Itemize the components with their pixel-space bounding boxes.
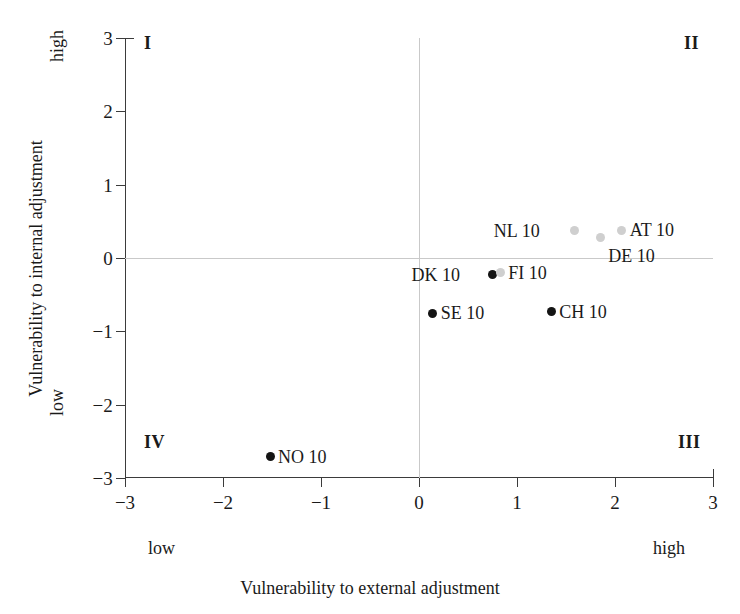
data-point bbox=[596, 233, 605, 242]
x-axis-tick-label: 1 bbox=[492, 493, 542, 512]
y-axis-tick-label: −1 bbox=[73, 322, 113, 341]
x-axis-tick-label: −3 bbox=[100, 493, 150, 512]
x-axis-tick-label: 2 bbox=[590, 493, 640, 512]
y-axis-tick-label: −3 bbox=[73, 469, 113, 488]
y-axis-tick bbox=[116, 478, 125, 479]
x-axis-high-anchor: high bbox=[653, 538, 685, 559]
data-point bbox=[617, 226, 626, 235]
data-point-label: SE 10 bbox=[441, 304, 485, 322]
data-point bbox=[266, 452, 275, 461]
data-point-label: FI 10 bbox=[508, 264, 547, 282]
data-point bbox=[428, 309, 437, 318]
data-point-label: NL 10 bbox=[494, 222, 540, 240]
x-axis-tick-label: −2 bbox=[198, 493, 248, 512]
x-axis-tick bbox=[517, 478, 518, 487]
y-axis-tick-label: −2 bbox=[73, 396, 113, 415]
data-point bbox=[547, 307, 556, 316]
y-axis-tick bbox=[116, 258, 125, 259]
quadrant-label-ii: II bbox=[684, 33, 699, 54]
y-axis-high-anchor: high bbox=[47, 30, 68, 62]
y-axis-tick-label: 1 bbox=[73, 176, 113, 195]
y-axis-tick bbox=[116, 331, 125, 332]
x-axis-tick-label: 3 bbox=[688, 493, 738, 512]
y-axis-low-anchor: low bbox=[47, 389, 68, 416]
x-axis-tick bbox=[223, 478, 224, 487]
x-axis-tick-label: −1 bbox=[296, 493, 346, 512]
x-axis-low-anchor: low bbox=[148, 538, 175, 559]
x-axis-tick bbox=[713, 478, 714, 487]
data-point-label: CH 10 bbox=[559, 303, 607, 321]
y-axis-title: Vulnerability to internal adjustment bbox=[26, 99, 47, 439]
quadrant-label-iv: IV bbox=[144, 432, 165, 453]
axis-cap-top bbox=[125, 38, 134, 39]
y-axis-tick bbox=[116, 38, 125, 39]
scatter-chart: −3−2−10123−3−2−10123NO 10SE 10DK 10FI 10… bbox=[0, 0, 740, 614]
quadrant-label-iii: III bbox=[678, 432, 701, 453]
data-point-label: DK 10 bbox=[412, 266, 461, 284]
data-point bbox=[496, 268, 505, 277]
x-axis-tick bbox=[125, 478, 126, 487]
x-axis-tick bbox=[419, 478, 420, 487]
y-axis-tick bbox=[116, 111, 125, 112]
x-axis-tick-label: 0 bbox=[394, 493, 444, 512]
y-axis-tick-label: 0 bbox=[73, 249, 113, 268]
x-axis-tick bbox=[321, 478, 322, 487]
x-axis-title: Vulnerability to external adjustment bbox=[0, 578, 740, 599]
data-point-label: NO 10 bbox=[278, 448, 327, 466]
x-axis-tick bbox=[615, 478, 616, 487]
y-axis-tick-label: 2 bbox=[73, 102, 113, 121]
y-axis-tick bbox=[116, 185, 125, 186]
y-axis-tick bbox=[116, 405, 125, 406]
y-axis-tick-label: 3 bbox=[73, 29, 113, 48]
quadrant-label-i: I bbox=[144, 33, 152, 54]
data-point-label: AT 10 bbox=[630, 221, 674, 239]
data-point-label: DE 10 bbox=[608, 247, 655, 265]
